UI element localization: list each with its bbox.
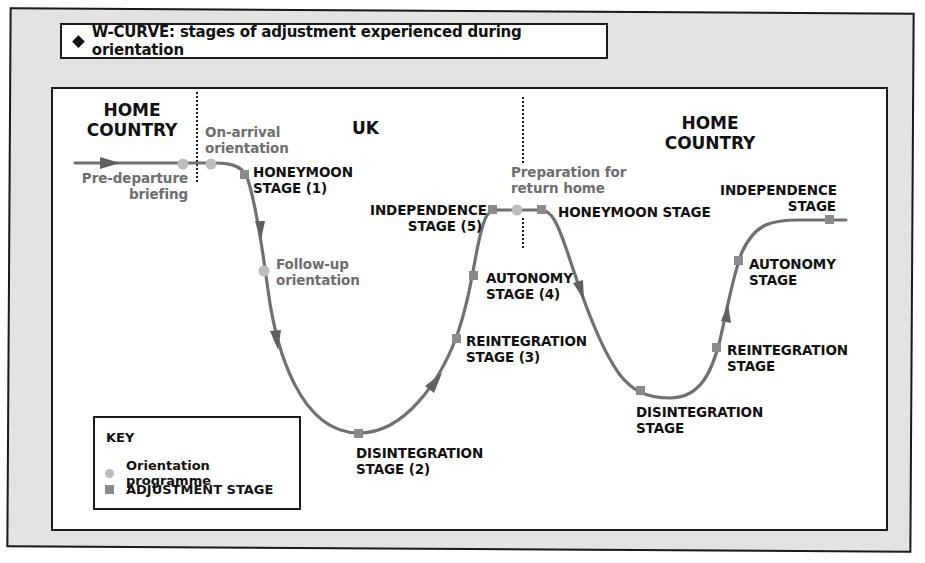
orientation-label-pre-departure: Pre-departure briefing bbox=[80, 170, 188, 202]
region-label-uk: UK bbox=[352, 118, 379, 138]
region-label-home-return: HOME COUNTRY bbox=[660, 113, 760, 153]
legend-title: KEY bbox=[106, 430, 134, 445]
circle-marker-icon bbox=[105, 469, 114, 478]
stage-label-disintegration-2: DISINTEGRATION STAGE (2) bbox=[356, 445, 483, 477]
orientation-label-return-prep: Preparation for return home bbox=[511, 164, 626, 196]
legend-label-adjustment: ADJUSTMENT STAGE bbox=[126, 482, 273, 497]
stage-marker-reintegration-3 bbox=[452, 334, 461, 343]
orientation-marker-pre-departure bbox=[178, 159, 189, 170]
region-label-home-origin: HOME COUNTRY bbox=[82, 100, 182, 140]
stage-label-reintegration-return: REINTEGRATION STAGE bbox=[727, 342, 848, 374]
legend-key: KEY Orientation programme ADJUSTMENT STA… bbox=[93, 416, 301, 510]
stage-label-autonomy-4: AUTONOMY STAGE (4) bbox=[486, 270, 573, 302]
stage-marker-autonomy-return bbox=[734, 256, 743, 265]
stage-marker-disintegration-2 bbox=[354, 429, 363, 438]
stage-label-disintegration-return: DISINTEGRATION STAGE bbox=[636, 404, 763, 436]
arrow-icon bbox=[573, 280, 584, 300]
stage-label-honeymoon-1: HONEYMOON STAGE (1) bbox=[253, 164, 353, 196]
orientation-label-follow-up: Follow-up orientation bbox=[276, 256, 360, 288]
stage-marker-autonomy-4 bbox=[469, 271, 478, 280]
stage-marker-honeymoon-return bbox=[537, 205, 546, 214]
stage-marker-honeymoon-1 bbox=[240, 170, 249, 179]
stage-label-independence-return: INDEPENDENCE STAGE bbox=[720, 182, 836, 214]
orientation-marker-on-arrival bbox=[206, 159, 217, 170]
stage-label-reintegration-3: REINTEGRATION STAGE (3) bbox=[466, 333, 587, 365]
stage-marker-independence-return bbox=[825, 215, 834, 224]
square-marker-icon bbox=[105, 485, 114, 494]
orientation-marker-follow-up bbox=[259, 266, 270, 277]
legend-item-adjustment: ADJUSTMENT STAGE bbox=[105, 482, 273, 497]
stage-marker-disintegration-return bbox=[636, 386, 645, 395]
arrow-icon bbox=[100, 157, 120, 169]
stage-label-honeymoon-return: HONEYMOON STAGE bbox=[558, 204, 711, 220]
stage-label-independence-5: INDEPENDENCE STAGE (5) bbox=[370, 202, 482, 234]
orientation-marker-return-prep bbox=[512, 205, 523, 216]
stage-label-autonomy-return: AUTONOMY STAGE bbox=[749, 256, 836, 288]
orientation-label-on-arrival: On-arrival orientation bbox=[205, 124, 289, 156]
stage-marker-reintegration-return bbox=[712, 343, 721, 352]
stage-marker-independence-5 bbox=[488, 205, 497, 214]
